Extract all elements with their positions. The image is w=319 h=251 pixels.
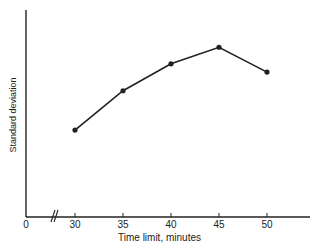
x-tick-label: 45 xyxy=(213,219,225,230)
y-axis-label: Standard deviation xyxy=(8,77,18,152)
line-chart: 3035404550 0 Standard deviation Time lim… xyxy=(0,0,319,251)
x-origin-label: 0 xyxy=(23,219,29,230)
x-tick-label: 35 xyxy=(117,219,129,230)
x-ticks: 3035404550 xyxy=(69,213,273,230)
chart-canvas: 3035404550 0 Standard deviation xyxy=(0,0,319,251)
data-point xyxy=(168,61,173,66)
x-axis-label: Time limit, minutes xyxy=(0,232,319,243)
data-point xyxy=(264,70,269,75)
series-line xyxy=(75,47,267,130)
x-tick-label: 50 xyxy=(261,219,273,230)
data-point xyxy=(216,45,221,50)
x-tick-label: 30 xyxy=(69,219,81,230)
x-tick-label: 40 xyxy=(165,219,177,230)
data-point xyxy=(72,127,77,132)
data-point xyxy=(120,88,125,93)
axis-break-icon xyxy=(51,210,58,222)
